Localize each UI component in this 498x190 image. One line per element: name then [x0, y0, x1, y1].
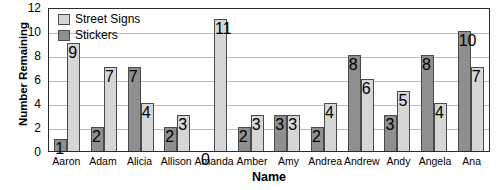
x-tick-label: Andrew: [343, 153, 380, 169]
bar: 4: [434, 103, 447, 151]
bar: 2: [311, 127, 324, 151]
bar: 2: [238, 127, 251, 151]
x-tick-label: Amber: [234, 153, 271, 169]
bar: 3: [274, 115, 287, 151]
bar: 8: [348, 55, 361, 151]
y-tick-label: 6: [10, 74, 44, 86]
bar-group: 23: [232, 9, 269, 151]
bar: 5: [397, 91, 410, 151]
x-axis-tick-labels: AaronAdamAliciaAllisonAmandaAmberAmyAndr…: [48, 153, 490, 169]
legend-label: Street Signs: [75, 13, 140, 25]
x-tick-label: Andrea: [307, 153, 344, 169]
bar: 11: [214, 19, 227, 151]
x-tick-label: Amanda: [195, 153, 234, 169]
bar: 10: [458, 31, 471, 151]
bar-group: 33: [269, 9, 306, 151]
legend-swatch-icon: [58, 30, 70, 41]
bar-group: 107: [452, 9, 489, 151]
bar: 1: [54, 139, 67, 151]
x-tick-label: Ana: [453, 153, 490, 169]
bar: 3: [177, 115, 190, 151]
x-axis-title: Name: [48, 170, 490, 184]
y-tick-label: 12: [10, 2, 44, 14]
bar: 4: [141, 103, 154, 151]
x-tick-label: Allison: [158, 153, 195, 169]
y-tick-label: 8: [10, 50, 44, 62]
legend-item: Street Signs: [58, 12, 140, 26]
chart-title: [48, 0, 448, 3]
bar: 7: [128, 67, 141, 151]
bar: 3: [384, 115, 397, 151]
chart-legend: Street SignsStickers: [58, 12, 140, 42]
bar-group: 011: [196, 9, 233, 151]
bar: 6: [361, 79, 374, 151]
bar: 2: [91, 127, 104, 151]
bar: 8: [421, 55, 434, 151]
bar-chart-figure: Number Remaining 024681012 1927742301123…: [0, 0, 498, 190]
bar: 4: [324, 103, 337, 151]
bar: 7: [104, 67, 117, 151]
x-tick-label: Amy: [270, 153, 307, 169]
bar-group: 23: [159, 9, 196, 151]
x-tick-label: Aaron: [48, 153, 85, 169]
legend-swatch-icon: [58, 14, 70, 25]
x-tick-label: Angela: [417, 153, 454, 169]
bar-group: 84: [416, 9, 453, 151]
legend-item: Stickers: [58, 28, 140, 42]
y-axis-tick-labels: 024681012: [10, 8, 44, 152]
x-tick-label: Andy: [380, 153, 417, 169]
bar: 2: [164, 127, 177, 151]
bar: 7: [471, 67, 484, 151]
x-tick-label: Adam: [85, 153, 122, 169]
legend-label: Stickers: [75, 29, 118, 41]
y-tick-label: 0: [10, 146, 44, 158]
bar-group: 86: [342, 9, 379, 151]
y-tick-label: 2: [10, 122, 44, 134]
y-tick-label: 10: [10, 26, 44, 38]
y-tick-label: 4: [10, 98, 44, 110]
bar: 9: [67, 43, 80, 151]
bar-group: 24: [306, 9, 343, 151]
bar-group: 35: [379, 9, 416, 151]
bar: 3: [287, 115, 300, 151]
bar: 3: [251, 115, 264, 151]
x-tick-label: Alicia: [121, 153, 158, 169]
